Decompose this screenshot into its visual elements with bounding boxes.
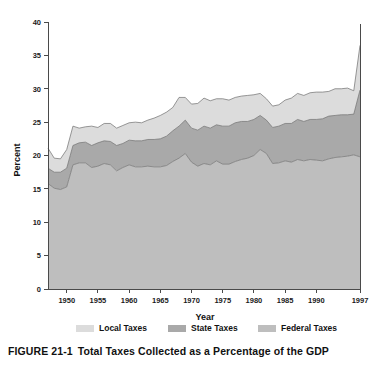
legend-swatch-federal-taxes bbox=[258, 325, 276, 332]
x-tick-label: 1985 bbox=[277, 296, 294, 305]
figure-caption: FIGURE 21-1Total Taxes Collected as a Pe… bbox=[8, 345, 383, 357]
figure-container: 0510152025303540 19501955196019651970197… bbox=[0, 0, 385, 367]
y-tick-label: 40 bbox=[33, 18, 41, 27]
legend-label-local-taxes: Local Taxes bbox=[99, 323, 147, 333]
y-axis-ticks: 0510152025303540 bbox=[33, 18, 48, 294]
x-tick-label: 1955 bbox=[90, 296, 107, 305]
chart-legend: Local TaxesState TaxesFederal Taxes bbox=[76, 323, 337, 333]
x-axis-title: Year bbox=[195, 312, 215, 322]
figure-number: FIGURE 21-1 bbox=[8, 345, 73, 357]
x-tick-label: 1980 bbox=[246, 296, 263, 305]
legend-swatch-state-taxes bbox=[168, 325, 186, 332]
y-tick-label: 15 bbox=[33, 185, 41, 194]
stacked-area-chart: 0510152025303540 19501955196019651970197… bbox=[0, 0, 385, 367]
y-tick-label: 25 bbox=[33, 118, 41, 127]
x-axis-ticks: 1950195519601965197019751980198519901997 bbox=[58, 289, 368, 305]
y-tick-label: 20 bbox=[33, 151, 41, 160]
x-tick-label: 1950 bbox=[58, 296, 75, 305]
y-tick-label: 0 bbox=[37, 285, 41, 294]
y-tick-label: 10 bbox=[33, 218, 41, 227]
y-axis-title: Percent bbox=[12, 143, 22, 176]
x-tick-label: 1997 bbox=[352, 296, 369, 305]
y-tick-label: 35 bbox=[33, 51, 41, 60]
x-tick-label: 1960 bbox=[121, 296, 138, 305]
legend-swatch-local-taxes bbox=[76, 325, 94, 332]
y-tick-label: 30 bbox=[33, 85, 41, 94]
figure-caption-text: Total Taxes Collected as a Percentage of… bbox=[78, 345, 329, 357]
x-tick-label: 1990 bbox=[308, 296, 325, 305]
x-tick-label: 1965 bbox=[152, 296, 169, 305]
area-series-federal-taxes bbox=[48, 149, 360, 289]
x-tick-label: 1975 bbox=[214, 296, 231, 305]
x-tick-label: 1970 bbox=[183, 296, 200, 305]
legend-label-state-taxes: State Taxes bbox=[191, 323, 238, 333]
legend-label-federal-taxes: Federal Taxes bbox=[281, 323, 337, 333]
y-tick-label: 5 bbox=[37, 251, 41, 260]
